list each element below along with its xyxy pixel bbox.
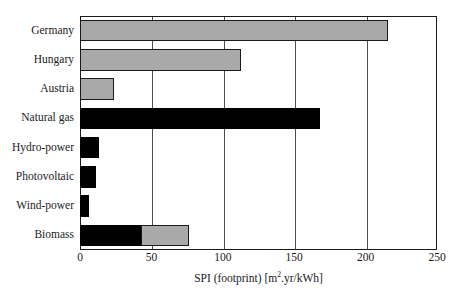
bar-segment-grey: [141, 225, 188, 247]
bars-layer: [80, 16, 437, 250]
x-tick-label-0: 0: [77, 252, 83, 264]
y-axis-label-austria: Austria: [0, 83, 74, 95]
y-axis-label-hungary: Hungary: [0, 54, 74, 66]
y-axis-label-hydro-power: Hydro-power: [0, 142, 74, 154]
y-axis-label-photovoltaic: Photovoltaic: [0, 171, 74, 183]
bar-row: [80, 78, 437, 100]
bar-hydro-power: [80, 137, 437, 159]
bar-photovoltaic: [80, 166, 437, 188]
x-tick-label-100: 100: [214, 252, 231, 264]
bar-wind-power: [80, 195, 437, 217]
bar-segment-black: [80, 195, 89, 217]
bar-segment-black: [80, 137, 99, 159]
bar-natural-gas: [80, 108, 437, 130]
bar-segment-black: [80, 166, 96, 188]
bar-hungary: [80, 49, 437, 71]
bar-row: [80, 49, 437, 71]
bar-row: [80, 108, 437, 130]
bar-segment-grey: [80, 78, 114, 100]
x-tick-label-150: 150: [286, 252, 303, 264]
bar-segment-grey: [80, 49, 241, 71]
x-axis-title: SPI (footprint) [m2.yr/kWh]: [80, 272, 437, 285]
bar-row: [80, 20, 437, 42]
bar-segment-black: [80, 225, 141, 247]
x-axis-title-main: SPI (footprint) [m: [194, 272, 277, 284]
bar-biomass: [80, 225, 437, 247]
bar-austria: [80, 78, 437, 100]
y-axis-label-germany: Germany: [0, 25, 74, 37]
x-tick-label-50: 50: [146, 252, 158, 264]
y-axis-label-biomass: Biomass: [0, 229, 74, 241]
bar-row: [80, 225, 437, 247]
bar-germany: [80, 20, 437, 42]
bar-row: [80, 195, 437, 217]
bar-segment-black: [80, 108, 320, 130]
x-axis-title-tail: .yr/kWh]: [281, 272, 323, 284]
bar-segment-grey: [80, 20, 388, 42]
x-tick-label-200: 200: [357, 252, 374, 264]
spi-footprint-bar-chart: GermanyHungaryAustriaNatural gasHydro-po…: [0, 0, 465, 303]
x-axis-tick-labels: 050100150200250: [80, 252, 437, 268]
y-axis-label-wind-power: Wind-power: [0, 200, 74, 212]
bar-row: [80, 137, 437, 159]
y-axis-label-natural-gas: Natural gas: [0, 112, 74, 124]
y-axis-category-labels: GermanyHungaryAustriaNatural gasHydro-po…: [0, 16, 74, 250]
bar-row: [80, 166, 437, 188]
x-tick-label-250: 250: [428, 252, 445, 264]
